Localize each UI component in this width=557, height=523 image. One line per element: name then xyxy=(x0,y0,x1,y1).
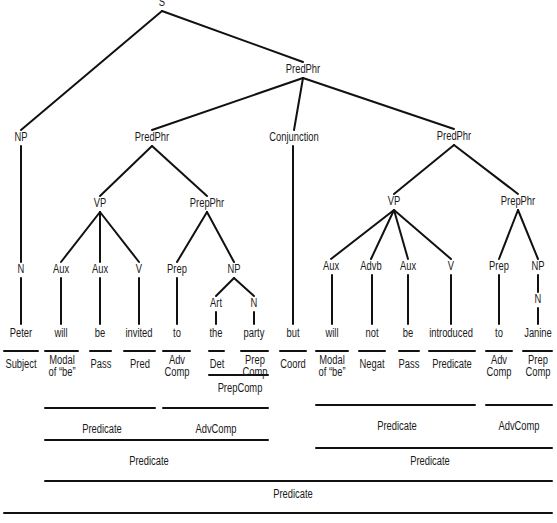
function-label-7: Coord xyxy=(280,358,305,371)
analysis-label-predicate: Predicate xyxy=(273,488,313,501)
word-invited: invited xyxy=(125,327,152,340)
word-janine: Janine xyxy=(524,327,552,340)
edge-predphr_right-vp_right xyxy=(394,145,454,194)
function-label-11: Predicate xyxy=(432,358,472,371)
node-np-subj: NP xyxy=(14,131,27,144)
function-label-5: Det xyxy=(209,358,224,371)
function-label-1: Modalof “be” xyxy=(48,354,75,378)
node-aux-3: Aux xyxy=(323,260,339,273)
edge-predphr_left-vp_left xyxy=(100,146,152,196)
word-introduced: introduced xyxy=(429,327,473,340)
tree-lines xyxy=(0,0,557,523)
node-n-party: N xyxy=(251,297,258,310)
edge-np_obj1-art xyxy=(216,278,234,296)
word-be: be xyxy=(95,327,105,340)
function-label-2: Pass xyxy=(90,358,111,371)
edge-vp_right-aux_4 xyxy=(394,210,408,259)
edge-predphr_top-predphr_left xyxy=(152,78,303,130)
node-v-1: V xyxy=(136,263,142,276)
edge-vp_right-advb xyxy=(371,210,394,259)
word-be: be xyxy=(403,327,413,340)
node-predphr-top: PredPhr xyxy=(286,63,320,76)
node-np-obj1: NP xyxy=(227,263,240,276)
edge-prepphr_right-prep_2 xyxy=(499,210,518,259)
node-vp-right: VP xyxy=(388,195,400,208)
analysis-label-predicate: Predicate xyxy=(129,455,169,468)
analysis-label-predicate: Predicate xyxy=(410,455,450,468)
analysis-label-prepcomp: PrepComp xyxy=(218,382,263,395)
node-np-obj2: NP xyxy=(531,260,544,273)
function-label-0: Subject xyxy=(5,358,36,371)
edge-prepphr_left-prep_1 xyxy=(177,212,207,262)
edge-vp_left-v_1 xyxy=(100,212,139,262)
node-aux-2: Aux xyxy=(92,263,108,276)
analysis-label-predicate: Predicate xyxy=(82,423,122,436)
word-will: will xyxy=(54,327,67,340)
node-predphr-left: PredPhr xyxy=(135,131,169,144)
edge-predphr_right-prepphr_right xyxy=(454,145,518,194)
analysis-label-advcomp: AdvComp xyxy=(195,423,236,436)
word-will: will xyxy=(325,327,338,340)
word-but: but xyxy=(286,327,299,340)
node-n-janine: N xyxy=(535,293,542,306)
node-prepphr-left: PrepPhr xyxy=(190,197,224,210)
node-prep-1: Prep xyxy=(167,263,187,276)
function-label-12: AdvComp xyxy=(487,354,512,378)
function-label-3: Pred xyxy=(130,358,150,371)
node-vp-left: VP xyxy=(94,197,106,210)
node-prepphr-right: PrepPhr xyxy=(501,195,535,208)
edge-vp_right-v_2 xyxy=(394,210,451,259)
node-aux-4: Aux xyxy=(400,260,416,273)
edge-prepphr_left-np_obj1 xyxy=(207,212,234,262)
node-predphr-right: PredPhr xyxy=(437,130,471,143)
node-conjunction: Conjunction xyxy=(269,131,318,144)
word-peter: Peter xyxy=(10,327,32,340)
function-label-4: AdvComp xyxy=(164,354,189,378)
syntax-tree-diagram: SPredPhrNPPredPhrConjunctionPredPhrVPPre… xyxy=(0,0,557,523)
node-art: Art xyxy=(210,297,222,310)
function-label-10: Pass xyxy=(399,358,420,371)
node-aux-1: Aux xyxy=(53,263,69,276)
function-label-6: PrepComp xyxy=(242,354,267,378)
function-label-8: Modalof “be” xyxy=(318,354,345,378)
edge-np_obj1-n_party xyxy=(234,278,254,296)
node-s: S xyxy=(159,0,165,9)
analysis-label-advcomp: AdvComp xyxy=(498,420,539,433)
word-to: to xyxy=(173,327,181,340)
node-advb: Advb xyxy=(360,260,381,273)
edge-vp_right-aux_3 xyxy=(331,210,394,259)
word-not: not xyxy=(365,327,378,340)
edge-predphr_top-conjunction xyxy=(294,78,303,130)
edge-s-np_subj xyxy=(21,11,162,130)
edge-predphr_left-prepphr_left xyxy=(152,146,207,196)
function-label-9: Negat xyxy=(360,358,385,371)
word-to: to xyxy=(495,327,503,340)
edge-prepphr_right-np_obj2 xyxy=(518,210,538,259)
word-the: the xyxy=(209,327,222,340)
word-party: party xyxy=(244,327,265,340)
edge-vp_left-aux_1 xyxy=(61,212,100,262)
node-v-2: V xyxy=(448,260,454,273)
edge-predphr_top-predphr_right xyxy=(303,78,454,129)
edge-s-predphr_top xyxy=(162,11,303,62)
node-n-subj: N xyxy=(18,263,25,276)
function-label-13: PrepComp xyxy=(525,354,550,378)
node-prep-2: Prep xyxy=(489,260,509,273)
analysis-label-predicate: Predicate xyxy=(377,420,417,433)
